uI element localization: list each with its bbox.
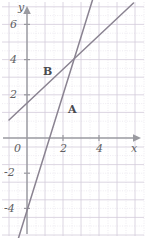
y-tick-label-minus-2: -2 [4,167,15,178]
series-label-a: A [68,104,77,115]
graph-canvas [0,0,146,238]
y-axis-label: y [18,2,24,13]
y-tick-label-6: 6 [10,19,17,30]
y-tick-label-minus-4: -4 [4,203,15,214]
minor-gridlines [2,2,144,236]
coordinate-graph-figure: 6 4 2 -2 -4 0 2 4 y x B A [0,0,146,238]
y-tick-label-4: 4 [10,54,17,65]
axis-ticks [24,24,99,208]
origin-label: 0 [14,143,21,154]
x-axis-label: x [131,143,137,154]
major-gridlines [2,2,144,236]
x-tick-label-4: 4 [96,143,103,154]
x-tick-label-2: 2 [60,143,67,154]
y-tick-label-2: 2 [10,89,17,100]
series-label-b: B [43,66,52,77]
x-axis [3,134,141,142]
